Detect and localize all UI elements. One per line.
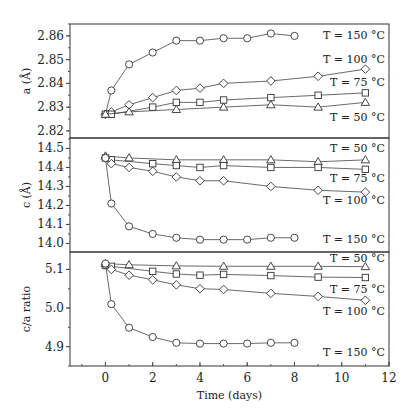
series-line — [105, 264, 365, 267]
circle-marker — [196, 340, 203, 347]
circle-marker — [173, 339, 180, 346]
circle-marker — [102, 154, 109, 161]
series-annotation: T = 150 °C — [323, 233, 385, 246]
circle-marker — [125, 61, 132, 68]
x-tick-label: 6 — [243, 371, 251, 385]
diamond-marker — [196, 84, 205, 93]
y-tick-label: 5.0 — [45, 301, 64, 315]
circle-marker — [102, 260, 109, 267]
triangle-marker — [125, 108, 133, 115]
square-marker — [220, 162, 226, 168]
diamond-marker — [219, 176, 228, 185]
circle-marker — [196, 37, 203, 44]
y-tick-label: 2.83 — [37, 100, 64, 114]
triangle-marker — [172, 105, 180, 112]
diamond-marker — [125, 271, 134, 280]
x-tick-label: 8 — [291, 371, 299, 385]
series-annotation: T = 100 °C — [323, 305, 385, 318]
circle-marker — [220, 35, 227, 42]
square-marker — [362, 90, 368, 96]
diamond-marker — [148, 93, 157, 102]
y-tick-label: 2.84 — [37, 76, 64, 90]
x-tick-label: 0 — [102, 371, 110, 385]
diamond-marker — [314, 292, 323, 301]
circle-marker — [108, 301, 115, 308]
circle-marker — [149, 49, 156, 56]
circle-marker — [220, 236, 227, 243]
series-annotation: T = 50 °C — [330, 252, 385, 265]
triangle-marker — [267, 262, 275, 269]
circle-marker — [244, 236, 251, 243]
diamond-marker — [219, 79, 228, 88]
series-annotation: T = 75 °C — [330, 76, 385, 89]
triangle-marker — [361, 98, 369, 105]
diamond-marker — [267, 77, 276, 86]
y-tick-label: 5.1 — [45, 262, 64, 276]
series-line — [105, 156, 365, 162]
series-annotation: T = 75 °C — [330, 172, 385, 185]
triangle-marker — [172, 156, 180, 163]
circle-marker — [108, 200, 115, 207]
circle-marker — [267, 234, 274, 241]
series-annotation: T = 100 °C — [323, 194, 385, 207]
diamond-marker — [196, 176, 205, 185]
square-marker — [197, 272, 203, 278]
square-marker — [173, 162, 179, 168]
triangle-marker — [219, 262, 227, 269]
circle-marker — [244, 340, 251, 347]
diamond-marker — [172, 86, 181, 95]
triangle-marker — [172, 262, 180, 269]
diamond-marker — [148, 276, 157, 285]
circle-marker — [291, 32, 298, 39]
y-tick-label: 2.82 — [37, 124, 64, 138]
series-annotation: T = 50 °C — [330, 111, 385, 124]
square-marker — [220, 271, 226, 277]
triangle-marker — [314, 262, 322, 269]
diamond-marker — [125, 163, 134, 172]
circle-marker — [220, 340, 227, 347]
y-tick-label: 14.2 — [37, 198, 64, 212]
circle-marker — [173, 234, 180, 241]
series-line — [105, 69, 365, 114]
circle-marker — [173, 37, 180, 44]
square-marker — [197, 164, 203, 170]
circle-marker — [291, 339, 298, 346]
y-axis-label: a (Å) — [19, 68, 33, 95]
triangle-marker — [219, 156, 227, 163]
y-tick-label: 14.4 — [37, 160, 64, 174]
x-tick-label: 2 — [149, 371, 157, 385]
diamond-marker — [219, 285, 228, 294]
triangle-marker — [125, 261, 133, 268]
diamond-marker — [361, 296, 370, 305]
lattice-parameter-chart: 2.822.832.842.852.86a (Å)T = 150 °CT = 1… — [0, 0, 416, 414]
circle-marker — [267, 30, 274, 37]
square-marker — [150, 104, 156, 110]
square-marker — [197, 99, 203, 105]
square-marker — [268, 164, 274, 170]
y-tick-label: 14.0 — [37, 236, 64, 250]
series-line — [105, 266, 365, 278]
circle-marker — [267, 339, 274, 346]
diamond-marker — [267, 182, 276, 191]
circle-marker — [108, 87, 115, 94]
y-tick-label: 4.9 — [45, 340, 64, 354]
diamond-marker — [172, 281, 181, 290]
series-annotation: T = 100 °C — [323, 53, 385, 66]
triangle-marker — [314, 158, 322, 165]
circle-marker — [149, 230, 156, 237]
y-tick-label: 14.1 — [37, 217, 64, 231]
y-tick-label: 14.3 — [37, 179, 64, 193]
square-marker — [362, 274, 368, 280]
diamond-marker — [267, 289, 276, 298]
x-tick-label: 12 — [381, 371, 396, 385]
y-tick-label: 14.5 — [37, 141, 64, 155]
diamond-marker — [361, 65, 370, 74]
x-tick-label: 10 — [334, 371, 349, 385]
diamond-marker — [314, 72, 323, 81]
y-tick-label: 2.85 — [37, 53, 64, 67]
triangle-marker — [361, 156, 369, 163]
square-marker — [150, 160, 156, 166]
square-marker — [315, 164, 321, 170]
series-annotation: T = 150 °C — [323, 29, 385, 42]
series-annotation: T = 150 °C — [323, 346, 385, 359]
